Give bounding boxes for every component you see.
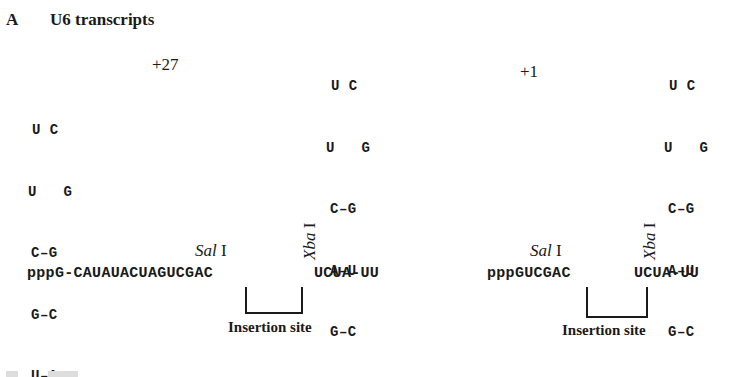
insertion-bracket	[586, 287, 648, 318]
panel-title: U6 transcripts	[50, 10, 154, 30]
sequence-5prime: pppG-CAUAUACUAGUCGAC	[27, 265, 213, 282]
panel-letter: A	[6, 10, 18, 30]
cropped-content	[6, 371, 18, 377]
loop-row: U C	[326, 76, 371, 97]
enzyme-suffix: I	[300, 223, 319, 233]
loop-row: U G	[664, 138, 709, 159]
sequence-3prime: UCUA-UU	[314, 265, 379, 282]
base-pair: G–C	[326, 322, 371, 343]
sequence-5prime: pppGUCGAC	[487, 265, 571, 282]
enzyme-suffix: I	[217, 241, 227, 260]
enzyme-suffix: I	[552, 241, 562, 260]
base-pair: G–C	[664, 322, 709, 343]
base-pair: C–G	[28, 243, 73, 264]
enzyme-name: Sal	[530, 241, 552, 260]
position-label: +27	[152, 55, 179, 75]
stem-loop-3prime: U C U G C–G A–U G–C G–C C–G G–C A–U G–U	[326, 35, 371, 377]
stem-loop-3prime: U C U G C–G A–U G–C G–C C–G G–C A–U G–U	[664, 35, 709, 377]
enzyme-sal1: Sal I	[530, 241, 562, 261]
insertion-site-label: Insertion site	[228, 319, 312, 336]
enzyme-name: Xba	[640, 233, 659, 260]
insertion-bracket	[245, 287, 303, 314]
stem-loop-5prime: U C U G C–G G–C U–A C–G G–C U–A	[28, 79, 73, 377]
base-pair: C–G	[326, 199, 371, 220]
loop-row: U G	[326, 138, 371, 159]
enzyme-xba1: Xba I	[300, 223, 320, 260]
base-pair: C–G	[664, 199, 709, 220]
enzyme-xba1: Xba I	[640, 223, 660, 260]
loop-row: U G	[28, 182, 73, 203]
enzyme-name: Xba	[300, 233, 319, 260]
base-pair: G–C	[28, 305, 73, 326]
sequence-3prime: UCUA-UU	[634, 265, 699, 282]
enzyme-sal1: Sal I	[195, 241, 227, 261]
cropped-content	[48, 371, 78, 377]
position-label: +1	[520, 62, 538, 82]
enzyme-name: Sal	[195, 241, 217, 260]
loop-row: U C	[664, 76, 709, 97]
loop-row: U C	[28, 120, 73, 141]
enzyme-suffix: I	[640, 223, 659, 233]
insertion-site-label: Insertion site	[562, 322, 646, 339]
